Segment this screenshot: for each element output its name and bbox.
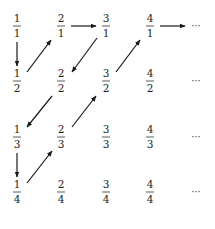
svg-text:1: 1 bbox=[147, 27, 154, 39]
svg-text:4: 4 bbox=[14, 193, 21, 205]
fraction-4-3: 4 3 bbox=[146, 123, 154, 150]
fraction-4-2: 4 2 bbox=[146, 67, 154, 94]
ellipsis-row-2: ··· bbox=[191, 75, 201, 86]
svg-text:1: 1 bbox=[58, 27, 65, 39]
ellipsis-row-3: ··· bbox=[191, 131, 201, 142]
fraction-3-3: 3 3 bbox=[102, 123, 110, 150]
svg-text:3: 3 bbox=[103, 178, 110, 190]
fraction-2-2: 2 2 bbox=[57, 67, 65, 94]
ellipsis-row-4: ··· bbox=[191, 186, 201, 197]
svg-text:4: 4 bbox=[103, 193, 110, 205]
fraction-1-3: 1 3 bbox=[13, 123, 21, 150]
svg-text:2: 2 bbox=[58, 123, 65, 135]
svg-text:2: 2 bbox=[58, 12, 65, 24]
fraction-2-3: 2 3 bbox=[57, 123, 65, 150]
svg-text:3: 3 bbox=[103, 138, 110, 150]
svg-text:2: 2 bbox=[58, 178, 65, 190]
fraction-1-1: 1 1 bbox=[13, 12, 21, 39]
svg-text:3: 3 bbox=[14, 138, 21, 150]
fraction-4-1: 4 1 bbox=[146, 12, 154, 39]
arrow-3-1-to-2-2 bbox=[72, 38, 97, 72]
svg-text:4: 4 bbox=[58, 193, 65, 205]
svg-text:3: 3 bbox=[147, 138, 154, 150]
fraction-3-2: 3 2 bbox=[102, 67, 110, 94]
svg-text:4: 4 bbox=[147, 178, 154, 190]
svg-text:4: 4 bbox=[147, 193, 154, 205]
ellipsis-row-1: ··· bbox=[191, 20, 201, 31]
svg-text:1: 1 bbox=[14, 123, 21, 135]
arrow-3-2-to-4-1 bbox=[116, 40, 140, 72]
fraction-4-4: 4 4 bbox=[146, 178, 154, 205]
svg-text:2: 2 bbox=[147, 82, 154, 94]
arrow-2-2-to-1-3 bbox=[27, 96, 52, 127]
svg-text:2: 2 bbox=[58, 82, 65, 94]
svg-text:3: 3 bbox=[103, 67, 110, 79]
svg-text:3: 3 bbox=[103, 123, 110, 135]
svg-text:2: 2 bbox=[14, 82, 21, 94]
fraction-3-4: 3 4 bbox=[102, 178, 110, 205]
svg-text:2: 2 bbox=[58, 67, 65, 79]
svg-text:1: 1 bbox=[14, 67, 21, 79]
cantor-diagonal-diagram: 1 1 2 1 3 1 4 1 ··· 1 2 2 2 3 2 4 2 ··· bbox=[0, 0, 215, 229]
svg-text:4: 4 bbox=[147, 12, 154, 24]
fraction-3-1: 3 1 bbox=[102, 12, 110, 39]
svg-text:4: 4 bbox=[147, 67, 154, 79]
arrow-2-3-to-3-2 bbox=[72, 96, 96, 127]
svg-text:2: 2 bbox=[103, 82, 110, 94]
svg-text:1: 1 bbox=[14, 178, 21, 190]
svg-text:3: 3 bbox=[103, 12, 110, 24]
arrow-1-2-to-2-1 bbox=[27, 40, 51, 72]
svg-text:4: 4 bbox=[147, 123, 154, 135]
fraction-1-2: 1 2 bbox=[13, 67, 21, 94]
fraction-1-4: 1 4 bbox=[13, 178, 21, 205]
svg-text:3: 3 bbox=[58, 138, 65, 150]
svg-text:1: 1 bbox=[103, 27, 110, 39]
fraction-2-1: 2 1 bbox=[57, 12, 65, 39]
fraction-2-4: 2 4 bbox=[57, 178, 65, 205]
svg-text:1: 1 bbox=[14, 12, 21, 24]
arrow-1-4-to-2-3 bbox=[27, 151, 52, 183]
svg-text:1: 1 bbox=[14, 27, 21, 39]
